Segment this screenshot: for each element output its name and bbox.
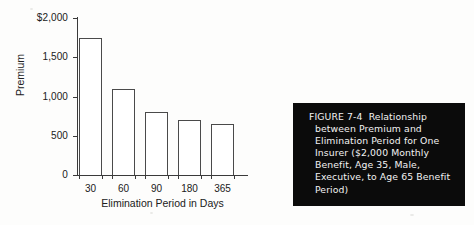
x-tick-group: 30 60 90 180 365: [77, 175, 247, 176]
x-tick-180b: [201, 175, 202, 179]
x-tick-180: [178, 175, 179, 179]
x-tick-90: [145, 175, 146, 179]
bar-90: [145, 112, 168, 175]
bar-60: [112, 89, 135, 175]
y-tick-2000: $2,000: [73, 18, 77, 19]
y-tick-label-500: 500: [51, 129, 68, 142]
y-tick-500: 500: [73, 136, 77, 137]
figure-page: 0 500 1,000 1,500 $2,000: [0, 0, 474, 225]
plot-area: 0 500 1,000 1,500 $2,000: [77, 18, 247, 175]
x-tick-60: [112, 175, 113, 179]
bar-30: [79, 38, 102, 175]
x-tick-30: [79, 175, 80, 179]
y-tick-label-1000: 1,000: [42, 90, 68, 103]
bar-365: [211, 124, 234, 175]
x-tick-label-365: 365: [203, 182, 243, 195]
figure-caption-box: FIGURE 7-4 Relationship between Premium …: [293, 103, 465, 206]
x-tick-90b: [168, 175, 169, 179]
x-tick-365: [211, 175, 212, 179]
y-tick-1500: 1,500: [73, 57, 77, 58]
bar-chart: 0 500 1,000 1,500 $2,000: [0, 0, 270, 225]
scan-speck: [410, 214, 414, 216]
y-tick-label-1500: 1,500: [42, 50, 68, 63]
x-axis-title: Elimination Period in Days: [77, 197, 248, 210]
bar-180: [178, 120, 201, 175]
x-tick-30b: [102, 175, 103, 179]
figure-caption-text: FIGURE 7-4 Relationship between Premium …: [303, 111, 457, 196]
y-tick-1000: 1,000: [73, 97, 77, 98]
y-tick-label-0: 0: [62, 168, 68, 181]
x-tick-365b: [234, 175, 235, 179]
y-axis-title: Premium: [14, 54, 26, 96]
y-tick-label-2000: $2,000: [37, 11, 68, 24]
x-tick-60b: [135, 175, 136, 179]
